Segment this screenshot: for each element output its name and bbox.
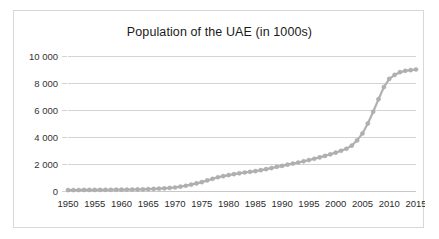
data-point-marker [141, 187, 145, 191]
x-axis-tick-label: 2000 [325, 198, 346, 209]
x-axis-tick-label: 1980 [218, 198, 239, 209]
y-axis-tick-labels: 02 0004 0006 0008 00010 000 [29, 51, 58, 197]
data-point-marker [157, 187, 161, 191]
data-point-marker [103, 188, 107, 192]
y-axis-tick-label: 10 000 [29, 51, 58, 62]
data-point-marker [264, 167, 268, 171]
y-axis-tick-label: 2 000 [34, 159, 58, 170]
data-point-marker [136, 187, 140, 191]
data-point-marker [259, 168, 263, 172]
data-point-marker [87, 188, 91, 192]
data-point-marker [200, 180, 204, 184]
data-point-marker [382, 85, 386, 89]
data-point-marker [109, 188, 113, 192]
data-point-marker [130, 187, 134, 191]
data-point-marker [189, 183, 193, 187]
data-point-marker [269, 166, 273, 170]
y-axis-tick-label: 0 [53, 186, 58, 197]
data-point-marker [414, 67, 418, 71]
data-point-marker [178, 185, 182, 189]
data-point-marker [296, 160, 300, 164]
y-axis-tick-label: 6 000 [34, 105, 58, 116]
data-point-marker [248, 170, 252, 174]
data-point-marker [184, 184, 188, 188]
data-point-marker [376, 97, 380, 101]
data-point-marker [392, 73, 396, 77]
x-axis-tick-label: 1955 [84, 198, 105, 209]
chart-container: Population of the UAE (in 1000s) 02 0004… [13, 10, 424, 228]
data-point-marker [334, 151, 338, 155]
x-axis-tick-labels: 1950195519601965197019751980198519901995… [57, 198, 425, 209]
y-axis-tick-label: 4 000 [34, 132, 58, 143]
x-axis-tick-label: 1975 [191, 198, 212, 209]
y-axis-tick-label: 8 000 [34, 78, 58, 89]
x-axis-tick-label: 1950 [57, 198, 78, 209]
data-point-marker [355, 138, 359, 142]
data-point-marker [66, 188, 70, 192]
chart-plot-area: 02 0004 0006 0008 00010 000 195019551960… [14, 11, 425, 229]
data-point-marker [371, 110, 375, 114]
data-point-marker [285, 163, 289, 167]
data-point-marker [366, 121, 370, 125]
data-point-marker [77, 188, 81, 192]
data-point-marker [275, 165, 279, 169]
data-point-marker [162, 186, 166, 190]
data-point-marker [125, 187, 129, 191]
x-axis-tick-label: 2015 [405, 198, 425, 209]
data-point-marker [216, 175, 220, 179]
data-point-marker [312, 157, 316, 161]
data-point-marker [360, 131, 364, 135]
data-point-marker [93, 188, 97, 192]
data-point-marker [318, 155, 322, 159]
data-point-marker [237, 171, 241, 175]
data-point-marker [194, 181, 198, 185]
data-point-marker [173, 185, 177, 189]
data-point-marker [409, 68, 413, 72]
data-point-marker [280, 164, 284, 168]
data-point-marker [403, 69, 407, 73]
data-point-marker [146, 187, 150, 191]
data-point-marker [168, 186, 172, 190]
data-point-marker [232, 172, 236, 176]
data-point-marker [205, 178, 209, 182]
x-axis-tick-label: 1965 [138, 198, 159, 209]
data-point-marker [301, 159, 305, 163]
data-point-marker [291, 161, 295, 165]
x-axis-tick-label: 2010 [379, 198, 400, 209]
x-axis-tick-label: 2005 [352, 198, 373, 209]
data-point-marker [98, 188, 102, 192]
data-point-marker [328, 152, 332, 156]
x-axis-tick-label: 1985 [245, 198, 266, 209]
data-point-marker [152, 187, 156, 191]
data-point-marker [253, 169, 257, 173]
data-point-marker [221, 174, 225, 178]
population-trend-line [68, 70, 416, 191]
x-axis-tick-label: 1995 [298, 198, 319, 209]
x-axis-tick-label: 1970 [165, 198, 186, 209]
data-point-marker [344, 147, 348, 151]
data-point-marker [82, 188, 86, 192]
data-point-marker [210, 177, 214, 181]
data-point-marker [350, 144, 354, 148]
data-point-marker [323, 154, 327, 158]
data-point-marker [114, 188, 118, 192]
population-series [66, 67, 418, 192]
data-point-marker [227, 173, 231, 177]
data-point-marker [71, 188, 75, 192]
data-point-marker [119, 188, 123, 192]
data-point-marker [243, 170, 247, 174]
data-point-marker [387, 77, 391, 81]
data-point-marker [398, 70, 402, 74]
data-point-marker [339, 149, 343, 153]
x-axis-tick-label: 1990 [272, 198, 293, 209]
data-point-marker [307, 158, 311, 162]
x-axis-tick-label: 1960 [111, 198, 132, 209]
